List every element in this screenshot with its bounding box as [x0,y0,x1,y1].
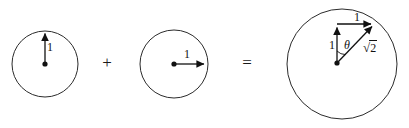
circle-left-center-dot [42,61,47,66]
math-figure: + = 1 1 1 1 θ √2 [0,0,409,128]
radical-group: √2 [363,41,377,54]
equals-operator: = [239,54,255,71]
angle-theta-label: θ [344,39,350,51]
circle-middle-center-dot [171,61,176,66]
triangle-vertical-label: 1 [329,39,335,51]
circle-middle-vector-label: 1 [184,48,190,60]
circle-left-group [12,31,78,97]
circle-middle-group [140,30,208,98]
circle-right-outline [287,9,397,119]
figure-vector-graphics [0,0,409,128]
circle-right-group [287,9,397,119]
plus-operator: + [99,54,115,71]
radicand: 2 [369,40,377,55]
hypotenuse-sqrt2-label: √2 [363,41,377,54]
triangle-horizontal-label: 1 [354,11,360,23]
circle-right-center-dot [334,60,339,65]
circle-left-vector-label: 1 [47,41,53,53]
